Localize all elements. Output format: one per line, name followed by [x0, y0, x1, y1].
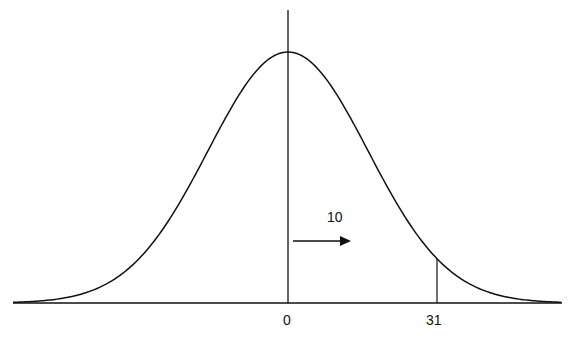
- arrow-head-icon: [340, 236, 351, 246]
- mean-tick-label: 0: [283, 313, 291, 327]
- cutoff-tick-label: 31: [426, 313, 442, 327]
- normal-curve-diagram: [0, 0, 573, 341]
- bell-curve: [13, 52, 561, 302]
- shift-label: 10: [327, 210, 343, 224]
